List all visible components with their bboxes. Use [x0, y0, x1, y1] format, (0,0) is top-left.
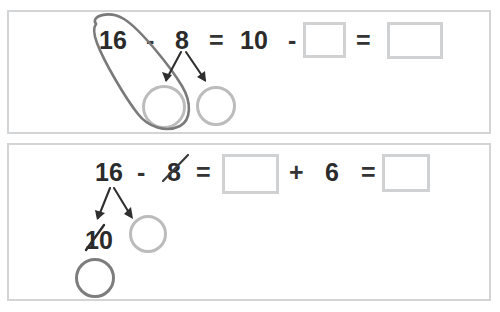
- problem-2-equals-2: =: [361, 160, 376, 185]
- problem-2-operator-minus-1: -: [137, 160, 145, 185]
- problem-1-part-circle-left[interactable]: [142, 85, 186, 129]
- problem-1-equals-1: =: [209, 28, 224, 53]
- problem-2-part-label-10: 10: [85, 228, 113, 253]
- problem-1-part-circle-right[interactable]: [196, 86, 236, 126]
- problem-1-ten-10: 10: [240, 28, 268, 53]
- problem-1-subtrahend-8: 8: [175, 28, 189, 53]
- problem-2-operator-plus: +: [289, 160, 304, 185]
- problem-2-minuend-16: 16: [95, 160, 123, 185]
- problem-1-answer-box-1[interactable]: [303, 22, 346, 58]
- problem-2-equals-1: =: [196, 160, 211, 185]
- problem-2-part-circle-left[interactable]: [75, 258, 115, 298]
- problem-2-subtrahend-8: 8: [167, 160, 181, 185]
- problem-1-minuend-16: 16: [99, 28, 127, 53]
- worksheet-canvas: 16 - 8 = 10 - = 16 - 8 = + 6 = 10: [0, 0, 500, 312]
- problem-2-addend-6: 6: [325, 160, 339, 185]
- problem-1-operator-minus-1: -: [146, 28, 154, 53]
- problem-1-operator-minus-2: -: [288, 28, 296, 53]
- problem-2-answer-box-1[interactable]: [222, 154, 279, 194]
- problem-1-equals-2: =: [356, 28, 371, 53]
- problem-1-answer-box-2[interactable]: [387, 22, 443, 59]
- problem-2-part-circle-right[interactable]: [129, 215, 167, 253]
- problem-2-answer-box-2[interactable]: [382, 154, 430, 192]
